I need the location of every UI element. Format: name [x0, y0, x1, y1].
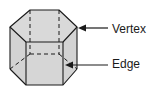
hexagonal-prism-diagram	[0, 0, 158, 91]
arrowhead-icon	[78, 25, 86, 32]
front-face	[26, 42, 63, 85]
vertex-arrow	[78, 25, 108, 32]
edge-arrow	[65, 62, 108, 69]
edge-label: Edge	[112, 58, 140, 70]
vertex-label: Vertex	[112, 23, 146, 35]
